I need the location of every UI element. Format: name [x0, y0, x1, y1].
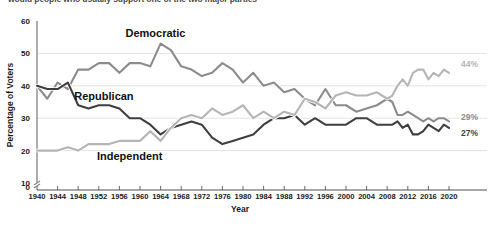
x-tick-label: 1980: [235, 192, 252, 201]
y-tick-label: 10: [21, 179, 30, 188]
x-tick-label: 1952: [90, 192, 107, 201]
y-tick-label: 20: [21, 147, 30, 156]
x-axis-title: Year: [231, 204, 250, 214]
end-label-independent: 44%: [461, 59, 478, 69]
x-tick-label: 2020: [441, 192, 458, 201]
series-line-democratic: [37, 44, 449, 122]
y-tick-label: 30: [21, 114, 30, 123]
x-tick-label: 2016: [420, 192, 437, 201]
series-label-democratic: Democratic: [125, 27, 185, 39]
end-label-republican: 27%: [461, 128, 478, 138]
y-tick-label: 60: [21, 17, 30, 26]
chart-svg: 0102030405060 19401944194819521956196019…: [0, 0, 489, 229]
series-label-independent: Independent: [97, 150, 163, 162]
x-tick-label: 2008: [379, 192, 396, 201]
line-chart: 0102030405060 19401944194819521956196019…: [0, 0, 489, 229]
x-tick-label: 1976: [214, 192, 231, 201]
chart-page: would people who usually support one of …: [0, 0, 489, 229]
x-tick-label: 1964: [152, 192, 170, 201]
end-value-labels: 29%27%44%: [461, 59, 478, 138]
x-tick-label: 1996: [317, 192, 334, 201]
x-tick-label: 1944: [49, 192, 67, 201]
y-tick-label: 50: [21, 49, 30, 58]
x-tick-label: 1956: [111, 192, 128, 201]
x-tick-label: 2004: [358, 192, 376, 201]
y-tick-label: 40: [21, 82, 30, 91]
x-tickmarks: [37, 186, 449, 190]
x-tick-label: 1992: [296, 192, 313, 201]
x-tick-label: 1984: [255, 192, 273, 201]
x-tick-label: 1940: [29, 192, 46, 201]
x-tick-label: 2012: [399, 192, 416, 201]
series-label-republican: Republican: [74, 90, 134, 102]
x-tick-label: 1972: [193, 192, 210, 201]
x-tick-label: 1960: [132, 192, 149, 201]
end-label-democratic: 29%: [461, 112, 478, 122]
x-tick-label: 1948: [70, 192, 87, 201]
x-tick-label: 2000: [338, 192, 355, 201]
x-tick-labels: 1940194419481952195619601964196819721976…: [29, 192, 458, 201]
y-axis-title: Percentage of Voters: [5, 63, 15, 148]
y-tick-labels: 0102030405060: [21, 17, 30, 192]
x-tick-label: 1968: [173, 192, 190, 201]
x-tick-label: 1988: [276, 192, 293, 201]
